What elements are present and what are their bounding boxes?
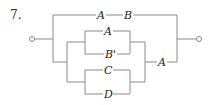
switch-series-a: A: [157, 56, 166, 69]
problem-number: 7.: [10, 8, 21, 22]
switch-top-a: A: [96, 9, 105, 22]
switch-top-b: B: [123, 9, 132, 22]
left-terminal-icon: [30, 37, 35, 42]
right-terminal-icon: [197, 37, 202, 42]
switch-group2-d: D: [103, 88, 113, 101]
circuit-diagram: 7. A B A B' C D A: [0, 0, 213, 105]
switch-group2-c: C: [104, 64, 113, 77]
switch-group1-a: A: [103, 25, 112, 38]
switch-group1-b-prime: B': [104, 48, 116, 61]
